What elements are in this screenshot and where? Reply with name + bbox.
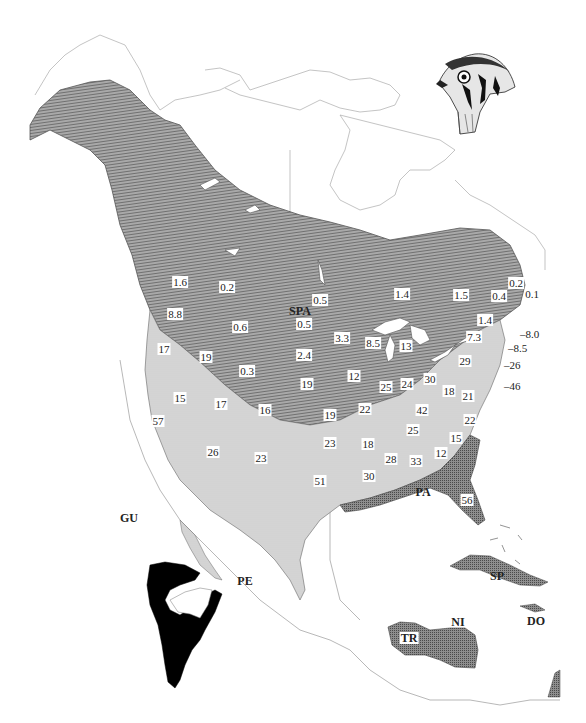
region-value: 23: [255, 452, 268, 464]
region-value: 17: [158, 343, 171, 355]
region-value: 18: [443, 385, 456, 397]
kestrel-head-illustration: [436, 54, 515, 134]
region-value: 15: [174, 392, 187, 404]
region-value: 29: [459, 355, 472, 367]
region-value: 25: [380, 381, 393, 393]
region-value: 0.2: [219, 281, 235, 293]
region-value: 56: [461, 494, 474, 506]
region-value: 26: [207, 446, 220, 458]
region-value: 16: [259, 404, 272, 416]
region-value: 13: [400, 340, 413, 352]
region-value: 30: [363, 470, 376, 482]
region-value: 0.5: [312, 294, 328, 306]
region-value: 1.6: [172, 276, 188, 288]
panama-range: [548, 670, 560, 697]
region-value: 0.4: [491, 290, 507, 302]
subspecies-label-tr: TR: [400, 632, 419, 644]
subspecies-label-pe: PE: [237, 575, 252, 587]
region-value: 19: [200, 351, 213, 363]
south-america-range: [147, 562, 222, 688]
coastal-callout: –26: [504, 359, 521, 371]
coastal-callout: –8.5: [508, 342, 527, 354]
coastal-callout: –46: [504, 380, 521, 392]
region-value: 24: [401, 378, 414, 390]
region-value: 19: [324, 409, 337, 421]
region-value: 30: [424, 373, 437, 385]
subspecies-label-sp: SP: [490, 570, 504, 582]
region-value: 42: [416, 404, 429, 416]
region-value: 18: [362, 438, 375, 450]
coastal-callout: –8.0: [520, 328, 539, 340]
region-value: 19: [301, 378, 314, 390]
subspecies-label-gu: GU: [120, 512, 138, 524]
region-value: 8.5: [365, 337, 381, 349]
region-value: 0.6: [232, 321, 248, 333]
region-value: 0.1: [525, 288, 539, 300]
subspecies-label-ni: NI: [451, 616, 464, 628]
region-value: 23: [324, 437, 337, 449]
region-value: 12: [435, 447, 448, 459]
subspecies-label-spa: SPA: [289, 305, 311, 317]
region-value: 1.4: [394, 288, 410, 300]
region-value: 1.5: [453, 289, 469, 301]
region-value: 22: [359, 403, 372, 415]
region-value: 15: [450, 432, 463, 444]
region-value: 0.5: [296, 318, 312, 330]
region-value: 0.2: [508, 277, 524, 289]
region-value: 51: [314, 475, 327, 487]
central-america-range: [388, 622, 478, 668]
region-value: 25: [407, 424, 420, 436]
hispaniola-range: [520, 604, 545, 612]
region-value: 8.8: [167, 308, 183, 320]
subspecies-label-pa: PA: [415, 486, 430, 498]
region-value: 2.4: [296, 349, 312, 361]
region-value: 28: [385, 453, 398, 465]
kestrel-range-map: [0, 0, 586, 723]
region-value: 7.3: [466, 331, 482, 343]
region-value: 57: [152, 415, 165, 427]
region-value: 33: [410, 455, 423, 467]
region-value: 3.3: [334, 332, 350, 344]
region-value: 12: [348, 370, 361, 382]
region-value: 22: [464, 414, 477, 426]
region-value: 21: [462, 390, 475, 402]
region-value: 0.3: [239, 365, 255, 377]
region-value: 1.4: [477, 314, 493, 326]
region-value: 17: [215, 398, 228, 410]
subspecies-label-do: DO: [527, 615, 545, 627]
